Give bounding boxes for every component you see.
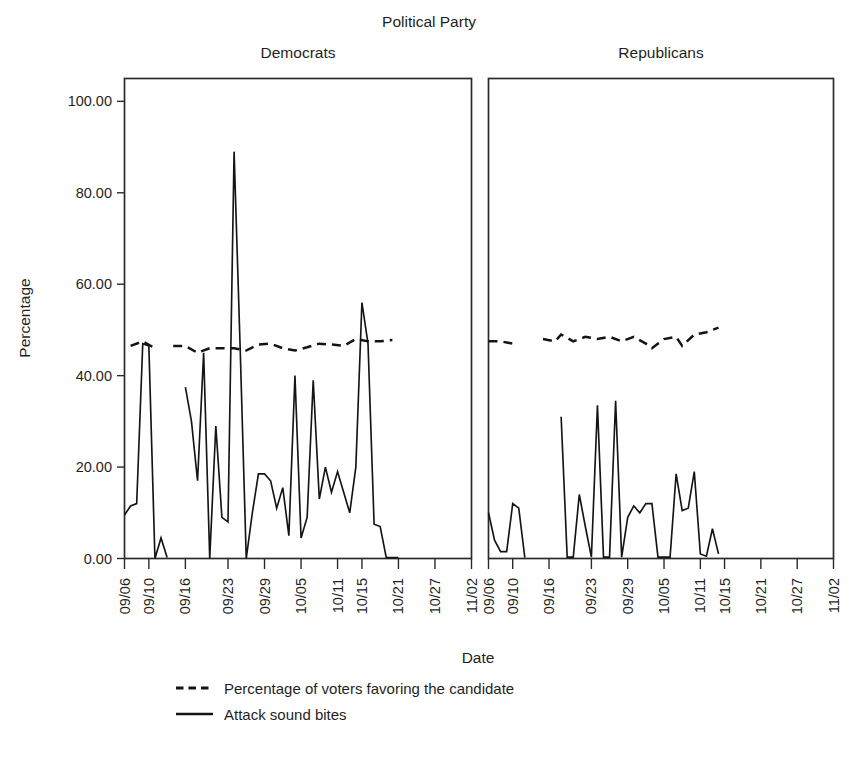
x-tick-label: 10/15 xyxy=(354,578,370,614)
x-tick-label: 09/06 xyxy=(117,578,133,614)
x-tick-label: 09/29 xyxy=(257,578,273,614)
x-tick-label: 10/21 xyxy=(753,578,769,614)
series-line-attack xyxy=(561,401,718,557)
x-axis-ticks-republicans xyxy=(489,559,834,570)
x-tick-label: 10/27 xyxy=(789,578,805,614)
series-republicans xyxy=(489,328,719,558)
x-tick-label: 09/10 xyxy=(505,578,521,614)
x-tick-label: 09/16 xyxy=(541,578,557,614)
x-tick-label: 09/23 xyxy=(583,578,599,614)
panel-frame-democrats xyxy=(125,79,472,559)
series-line-attack xyxy=(125,344,168,559)
x-tick-label: 11/02 xyxy=(464,578,480,613)
x-axis-ticks-democrats xyxy=(125,559,472,570)
y-tick-label: 60.00 xyxy=(76,276,112,292)
legend-label-attack: Attack sound bites xyxy=(224,706,347,723)
x-axis-tick-labels: 09/0609/1009/1609/2309/2910/0510/1110/15… xyxy=(117,578,842,614)
chart-figure: Political Party Democrats Republicans Pe… xyxy=(0,0,858,762)
panel-frame-republicans xyxy=(489,79,834,559)
panel-title-democrats: Democrats xyxy=(261,44,336,61)
chart-legend: Percentage of voters favoring the candid… xyxy=(176,680,514,723)
y-tick-label: 0.00 xyxy=(84,551,112,567)
x-tick-label: 09/16 xyxy=(177,578,193,614)
x-axis-title: Date xyxy=(462,649,495,666)
y-axis-title: Percentage xyxy=(16,278,33,357)
y-axis-tick-labels: 0.0020.0040.0060.0080.00100.00 xyxy=(68,93,112,566)
y-axis-ticks xyxy=(117,101,125,558)
x-tick-label: 09/29 xyxy=(620,578,636,614)
figure-title: Political Party xyxy=(382,13,476,30)
x-tick-label: 10/11 xyxy=(692,578,708,613)
series-democrats xyxy=(125,152,399,559)
y-tick-label: 80.00 xyxy=(76,185,112,201)
series-line-attack xyxy=(185,152,398,559)
x-tick-label: 11/02 xyxy=(826,578,842,613)
y-tick-label: 40.00 xyxy=(76,368,112,384)
series-line-poll xyxy=(489,341,513,343)
x-tick-label: 10/11 xyxy=(330,578,346,613)
x-tick-label: 10/15 xyxy=(717,578,733,614)
panel-title-republicans: Republicans xyxy=(618,44,704,61)
series-line-attack xyxy=(489,504,525,558)
political-party-faceted-line-chart: Political Party Democrats Republicans Pe… xyxy=(0,0,858,762)
x-tick-label: 09/10 xyxy=(141,578,157,614)
y-tick-label: 20.00 xyxy=(76,459,112,475)
legend-label-poll: Percentage of voters favoring the candid… xyxy=(224,680,514,697)
x-tick-label: 10/05 xyxy=(293,578,309,614)
y-tick-label: 100.00 xyxy=(68,93,112,109)
series-line-poll xyxy=(543,328,719,349)
x-tick-label: 09/06 xyxy=(481,578,497,614)
x-tick-label: 10/27 xyxy=(427,578,443,614)
x-tick-label: 10/05 xyxy=(656,578,672,614)
x-tick-label: 09/23 xyxy=(220,578,236,614)
x-tick-label: 10/21 xyxy=(390,578,406,614)
